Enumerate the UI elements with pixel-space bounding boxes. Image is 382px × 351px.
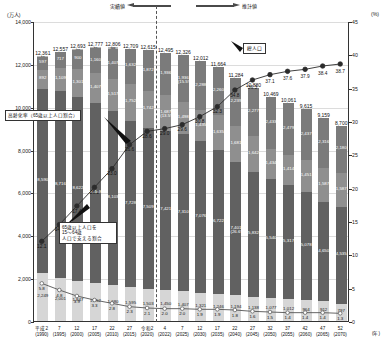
callout-aging-rate: 高齢化率（65歳以上人口割合） (5, 110, 81, 121)
callout-leader-lines (0, 0, 382, 351)
callout-support-ratio: 65歳以上人口を 15～64歳 人口で支える割合 (59, 222, 117, 244)
chart-root: 実績値 推計値 (万人) (%) 02,0004,0006,0008,00010… (0, 0, 382, 351)
callout-total-population: 総人口 (243, 43, 266, 54)
